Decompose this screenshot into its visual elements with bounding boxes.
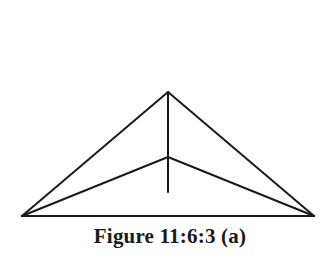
segment-base_left-inner — [22, 157, 168, 216]
segment-apex-base_right — [168, 92, 314, 216]
segment-base_left-apex — [22, 92, 168, 216]
figure-caption: Figure 11:6:3 (a) — [0, 224, 333, 249]
diagram-lines — [22, 92, 314, 216]
segment-inner-base_right — [168, 157, 314, 216]
triangle-diagram — [0, 0, 333, 262]
